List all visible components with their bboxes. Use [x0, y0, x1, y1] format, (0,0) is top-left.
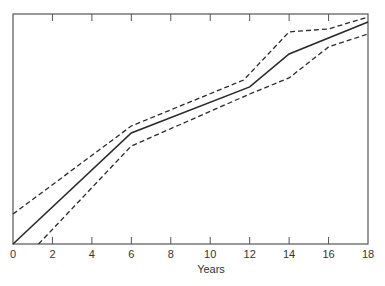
- plot-border: [13, 14, 368, 244]
- series-lines: [13, 17, 368, 244]
- x-tick-label: 16: [322, 248, 334, 260]
- x-tick-label: 6: [128, 248, 134, 260]
- x-tick-label: 10: [204, 248, 216, 260]
- x-tick-label: 8: [168, 248, 174, 260]
- x-tick-label: 18: [362, 248, 374, 260]
- plot-frame: [13, 14, 368, 244]
- x-tick-label: 2: [49, 248, 55, 260]
- estimate-line: [13, 22, 368, 244]
- x-tick-label: 14: [283, 248, 295, 260]
- lower-bound-line: [39, 34, 368, 244]
- x-tick-label: 4: [89, 248, 95, 260]
- x-axis-ticks: 024681012141618: [10, 14, 374, 260]
- x-axis-title: Years: [197, 263, 225, 275]
- upper-bound-line: [13, 17, 368, 214]
- x-tick-label: 12: [244, 248, 256, 260]
- x-tick-label: 0: [10, 248, 16, 260]
- line-chart: 024681012141618 Years: [0, 0, 385, 286]
